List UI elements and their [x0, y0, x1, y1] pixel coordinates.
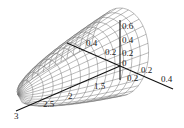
neg-tick-label: 0.2: [127, 73, 138, 83]
x-tick-label: 2.5: [43, 99, 55, 109]
y-front-tick-label: 0.4: [161, 74, 173, 84]
y-back-tick-label: 0.2: [105, 47, 116, 57]
y-front-tick-label: 0.2: [141, 65, 152, 75]
z-tick-label: 0.2: [122, 48, 133, 58]
z-tick-label: 0.6: [122, 21, 134, 31]
x-tick-label: 3: [14, 111, 19, 121]
y-back-tick-label: 0.4: [86, 38, 98, 48]
x-tick-label: 1.5: [94, 81, 106, 91]
z-tick-label: 0.4: [122, 35, 134, 45]
surface-plot: 32.521.50.40.20.20.40.60.40.200.2: [0, 0, 184, 128]
z-tick-label: 0: [122, 58, 127, 68]
x-tick-label: 2: [68, 91, 73, 101]
